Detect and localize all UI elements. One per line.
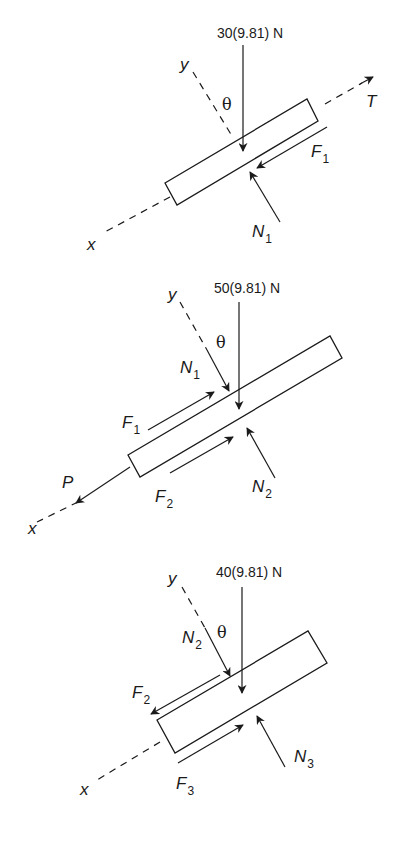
normal-n2-label: N2 <box>182 628 202 652</box>
diagram-block-2: x P y θ N1 50(9.81) N F1 F2 N2 <box>27 280 342 538</box>
normal-n2-arrow <box>247 428 275 478</box>
normal-n2-label: N2 <box>252 477 272 501</box>
weight-label: 30(9.81) N <box>217 25 283 41</box>
theta-label: θ <box>216 333 226 352</box>
normal-n3-label: N3 <box>294 747 314 771</box>
friction-f1-label: F1 <box>311 142 329 166</box>
x-axis-dashed <box>103 197 170 233</box>
y-axis-label: y <box>179 55 190 74</box>
normal-n3-arrow <box>257 716 285 767</box>
y-axis-dashed <box>182 587 205 628</box>
weight-label: 50(9.81) N <box>214 280 280 296</box>
y-axis-label: y <box>167 569 178 588</box>
theta-label: θ <box>222 95 232 114</box>
force-p-label: P <box>62 473 74 492</box>
free-body-diagrams: x T y θ 30(9.81) N F1 N1 x P y θ N1 <box>0 0 405 843</box>
weight-label: 40(9.81) N <box>216 564 282 580</box>
x-axis-label: x <box>79 780 89 799</box>
block-2-rect <box>128 336 342 477</box>
theta-label: θ <box>217 623 227 642</box>
normal-n1-arrow <box>207 350 229 391</box>
normal-n1-label: N1 <box>252 222 272 246</box>
friction-f2-label: F2 <box>155 487 173 511</box>
x-axis-label: x <box>27 519 37 538</box>
normal-n1-arrow <box>250 172 280 222</box>
friction-f3-label: F3 <box>176 774 194 798</box>
force-p-arrow <box>76 467 130 503</box>
y-axis-label: y <box>167 285 178 304</box>
friction-f1-label: F1 <box>122 413 140 437</box>
x-axis-dashed <box>37 502 78 522</box>
tension-arrow <box>360 77 373 84</box>
tension-line <box>325 83 362 104</box>
x-axis-dashed <box>97 742 160 780</box>
diagram-block-1: x T y θ 30(9.81) N F1 N1 <box>86 25 378 254</box>
friction-f2-label: F2 <box>132 683 150 707</box>
normal-n1-label: N1 <box>180 358 200 382</box>
tension-label: T <box>366 92 378 111</box>
block-1-rect <box>165 99 318 205</box>
diagram-block-3: x y θ N2 40(9.81) N F2 F3 N3 <box>79 564 327 799</box>
y-axis-dashed <box>180 302 207 350</box>
x-axis-label: x <box>86 235 96 254</box>
